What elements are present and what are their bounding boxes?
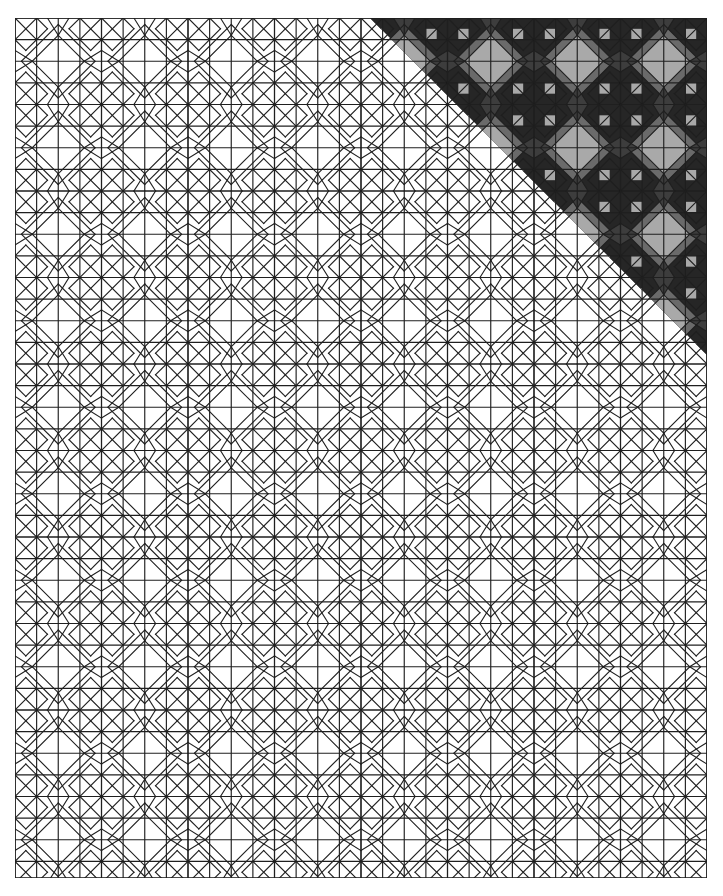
canvas-margin-mask: [0, 0, 15, 896]
canvas-margin-mask: [0, 878, 723, 896]
quilt-pattern-svg: [0, 0, 723, 896]
canvas-margin-mask: [0, 0, 723, 18]
pattern-strokes: [15, 18, 707, 883]
quilt-canvas: [0, 0, 723, 896]
canvas-margin-mask: [707, 0, 723, 896]
